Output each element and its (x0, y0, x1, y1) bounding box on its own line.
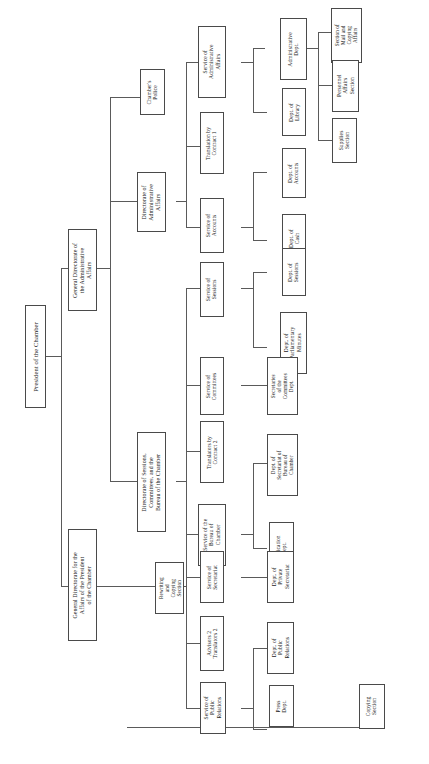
node-copying-section[interactable]: Copying Section (359, 684, 385, 729)
edge-to-advisors (186, 643, 200, 644)
node-dept-public-relations[interactable]: Dept. of Public Relations (267, 622, 294, 674)
node-dept-parliamentary-minutes-label: Dept. of Parliamentary Minutes (284, 327, 303, 359)
edge-to-translation-c1 (186, 146, 200, 147)
edge-dirsessions-spine (186, 288, 187, 534)
edge-to-dept-secretariat-bureau (253, 463, 267, 464)
node-service-secretariat[interactable]: Service of Secretariat (200, 551, 224, 603)
node-dept-accounts[interactable]: Dept. of Accounts (282, 148, 306, 198)
edge-to-personnel-affairs (318, 85, 332, 86)
node-section-mail-copying-affairs-label: Section of Mail and Copying Affairs (334, 24, 359, 46)
node-press-dept-label: Press Dept. (275, 700, 288, 713)
node-personnel-affairs-section-label: Personnel Affairs Section (336, 75, 355, 98)
node-dept-cash-label: Dept. of Cash (288, 229, 301, 248)
node-general-directorate-administrative-affairs[interactable]: General Directorate of the Administrativ… (68, 229, 97, 311)
node-chambers-police[interactable]: Chamber's Police (140, 69, 165, 115)
node-dept-sessions-label: Dept. of Sessions (288, 262, 301, 282)
node-dept-library-label: Dept. of Library (288, 103, 301, 122)
node-dept-public-relations-label: Dept. of Public Relations (271, 637, 290, 659)
edge-svcpr-spine (253, 648, 254, 729)
node-translation-by-contract-1[interactable]: Translation by Contract 1 (200, 112, 224, 174)
node-dept-library[interactable]: Dept. of Library (282, 88, 306, 136)
node-service-committees-label: Service of Committees (206, 372, 219, 400)
node-president[interactable]: President of the Chamber (25, 305, 46, 408)
edge-to-svc-admin (186, 62, 198, 63)
edge-to-supplies-section (318, 140, 332, 141)
edge-svcaccounts-stub (241, 227, 253, 228)
node-service-administrative-affairs-label: Service of Administrative Affairs (202, 45, 221, 79)
edge-to-dept-sessions (253, 272, 267, 273)
edge-to-dept-private-secretariat (241, 577, 267, 578)
node-service-public-relations-label: Service of Public Relations (203, 696, 222, 719)
node-personnel-affairs-section[interactable]: Personnel Affairs Section (332, 60, 359, 112)
edge-svcpr-stub (241, 708, 253, 709)
node-dept-private-secretariat-label: Dept. of Private Secretariat (271, 565, 290, 590)
edge-svcsessions-spine (253, 272, 254, 347)
node-translators-by-contract-2[interactable]: Translators by Contract 2 (200, 421, 224, 483)
node-service-public-relations[interactable]: Service of Public Relations (200, 682, 226, 734)
edge-president-spine (61, 268, 62, 586)
node-press-dept[interactable]: Press Dept. (269, 685, 294, 727)
node-service-sessions-label: Service of Sessions (206, 278, 219, 301)
node-dept-sessions[interactable]: Dept. of Sessions (282, 248, 306, 296)
edge-to-svc-public-relations (186, 708, 200, 709)
node-service-accounts-label: Service of Accounts (206, 214, 219, 237)
edge-to-svc-committees (186, 385, 200, 386)
node-secretaries-committees-dept-label: Secretaries of the Committees Dept. (270, 373, 295, 399)
edge-to-svc-accounts (186, 227, 200, 228)
node-directorate-sessions-committees-bureau[interactable]: Directorate of Sessions, Committees, and… (137, 432, 166, 532)
node-dept-secretariat-bureau-chamber-label: Dept. of Secretariat of Bureau of Chambe… (270, 450, 295, 479)
edge-to-press-dept (253, 729, 267, 730)
node-dept-private-secretariat[interactable]: Dept. of Private Secretariat (267, 551, 294, 603)
node-service-administrative-affairs[interactable]: Service of Administrative Affairs (198, 26, 226, 98)
node-directorate-administrative-affairs-label: Directorate of Administrative Affairs (141, 184, 162, 221)
edge-gdadmin-stub (96, 268, 110, 269)
node-translation-by-contract-1-label: Translation by Contract 1 (206, 126, 219, 159)
edge-copying-baseline (127, 727, 372, 728)
node-directorate-administrative-affairs[interactable]: Directorate of Administrative Affairs (137, 172, 166, 232)
node-secretaries-committees-dept[interactable]: Secretaries of the Committees Dept. (267, 357, 298, 415)
edge-admindept-stub (307, 48, 318, 49)
node-general-directorate-president-affairs-label: General Directorate for the Affairs of t… (72, 552, 93, 618)
node-service-bureau-chamber-label: Service of the Bureau of Chamber (202, 519, 221, 551)
edge-svcsessions-stub (241, 288, 253, 289)
edge-svcadmin-spine (253, 48, 254, 112)
edge-to-dept-public-relations (253, 648, 267, 649)
node-chambers-police-label: Chamber's Police (146, 80, 159, 104)
edge-to-translators-c2 (186, 451, 200, 452)
node-translators-by-contract-2-label: Translators by Contract 2 (206, 436, 219, 469)
edge-to-administrative-dept (253, 48, 265, 49)
org-chart-canvas: President of the Chamber General Directo… (0, 0, 429, 764)
node-president-label: President of the Chamber (32, 322, 40, 392)
edge-to-svc-secretariat (186, 577, 200, 578)
node-administrative-dept[interactable]: Administrative Dept. (280, 18, 307, 80)
node-advisors-translators-label: Advisors 2 Translators 2 (206, 629, 219, 659)
edge-to-svc-sessions (186, 288, 200, 289)
node-advisors-translators[interactable]: Advisors 2 Translators 2 (200, 616, 224, 671)
node-service-sessions[interactable]: Service of Sessions (200, 262, 224, 317)
edge-to-dir-admin (110, 201, 137, 202)
edge-gdadmin-spine (110, 97, 111, 481)
node-section-mail-copying-affairs[interactable]: Section of Mail and Copying Affairs (331, 8, 362, 63)
edge-to-chambers-police (110, 97, 140, 98)
edge-to-dept-cash (253, 240, 267, 241)
edge-svcadmin-stub (241, 62, 253, 63)
edge-svcbureau-stub (241, 534, 253, 535)
node-copying-section-label: Copying Section (366, 697, 379, 717)
node-dept-secretariat-bureau-chamber[interactable]: Dept. of Secretariat of Bureau of Chambe… (267, 434, 298, 496)
edge-to-gd-president (61, 586, 68, 587)
node-rewriting-copying-section[interactable]: Rewriting and Copying Section (155, 562, 184, 614)
node-administrative-dept-label: Administrative Dept. (287, 32, 300, 66)
edge-to-dept-minutes (253, 347, 267, 348)
edge-to-dept-accounts (253, 172, 267, 173)
edge-rewriting-stem-v (186, 534, 187, 589)
node-supplies-section-label: Supplies Section (338, 131, 351, 151)
node-service-accounts[interactable]: Service of Accounts (200, 198, 224, 253)
edge-admindept-spine (318, 32, 319, 140)
node-rewriting-copying-section-label: Rewriting and Copying Section (157, 577, 182, 599)
edge-president-stub (46, 356, 61, 357)
edge-to-section-mail-copying (318, 32, 331, 33)
node-supplies-section[interactable]: Supplies Section (332, 118, 357, 163)
node-general-directorate-president-affairs[interactable]: General Directorate for the Affairs of t… (68, 529, 97, 641)
edge-svcaccounts-spine (253, 172, 254, 240)
node-service-committees[interactable]: Service of Committees (200, 357, 224, 415)
